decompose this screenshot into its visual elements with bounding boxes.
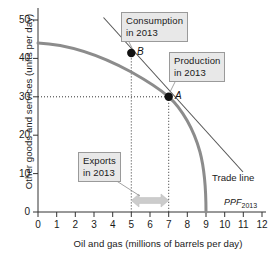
xtick-7: 7	[161, 219, 177, 230]
callout-consumption-line2: in 2013	[126, 27, 183, 39]
callout-production: Production in 2013	[169, 52, 225, 82]
xtick-12: 12	[254, 219, 270, 230]
callout-production-line2: in 2013	[174, 67, 220, 79]
xtick-0: 0	[30, 219, 46, 230]
exports-leader	[115, 180, 140, 196]
ppf-label-subscript: 2013	[242, 202, 258, 209]
callout-production-line1: Production	[174, 55, 220, 67]
x-axis-title: Oil and gas (millions of barrels per day…	[46, 238, 270, 249]
production-point	[165, 93, 173, 101]
consumption-point	[127, 49, 135, 57]
y-axis-title: Other goods and services (units per day)	[23, 12, 34, 192]
xtick-8: 8	[179, 219, 195, 230]
callout-exports-line1: Exports	[83, 155, 116, 167]
xtick-5: 5	[123, 219, 139, 230]
ytick-0: 0	[14, 206, 30, 217]
y-tick-marks	[33, 20, 38, 212]
xtick-1: 1	[49, 219, 65, 230]
xtick-4: 4	[105, 219, 121, 230]
callout-consumption-line1: Consumption	[126, 15, 183, 27]
ppf-label-text: PPF	[224, 197, 242, 207]
ppf-trade-chart: Consumption in 2013 Production in 2013 E…	[0, 0, 270, 254]
callout-exports-line2: in 2013	[83, 167, 116, 179]
callout-exports: Exports in 2013	[78, 152, 121, 182]
xtick-6: 6	[142, 219, 158, 230]
xtick-10: 10	[217, 219, 233, 230]
callout-consumption: Consumption in 2013	[121, 12, 188, 42]
point-b-label: B	[137, 46, 144, 57]
point-a-label: A	[175, 90, 182, 101]
x-tick-marks	[38, 212, 262, 217]
trade-line-label: Trade line	[212, 172, 254, 183]
xtick-3: 3	[86, 219, 102, 230]
ppf-label: PPF2013	[224, 197, 257, 209]
xtick-9: 9	[198, 219, 214, 230]
xtick-2: 2	[67, 219, 83, 230]
xtick-11: 11	[235, 219, 251, 230]
export-arrow	[131, 194, 168, 207]
